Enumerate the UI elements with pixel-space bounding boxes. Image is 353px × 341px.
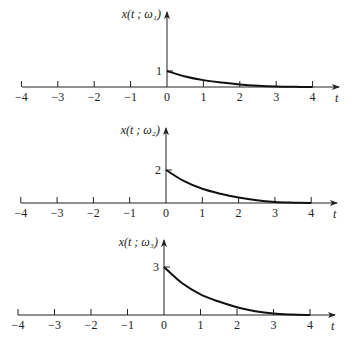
x-tick-label: −1	[124, 90, 137, 104]
x-tick-label: −4	[14, 206, 27, 220]
x-tick-label: 0	[163, 206, 169, 220]
x-tick-label: −3	[51, 90, 64, 104]
x-tick-label: 2	[234, 318, 240, 332]
y-tick-label: 3	[153, 260, 159, 274]
x-tick-label: −3	[51, 206, 64, 220]
x-tick-label: 4	[310, 90, 316, 104]
x-tick-label: −4	[15, 90, 28, 104]
x-axis-label: t	[331, 319, 335, 333]
x-tick-label: 3	[271, 318, 277, 332]
y-tick-label: 1	[156, 64, 162, 78]
x-tick-label: 3	[273, 90, 279, 104]
x-tick-label: 1	[199, 206, 205, 220]
x-tick-label: −2	[88, 90, 101, 104]
x-tick-label: 2	[237, 90, 243, 104]
y-axis-label: x(t ; ω₃)	[118, 235, 158, 249]
x-tick-label: 1	[200, 90, 206, 104]
x-tick-label: 2	[236, 206, 242, 220]
x-axis-label: t	[335, 91, 339, 105]
x-tick-label: 3	[272, 206, 278, 220]
x-axis-label: t	[333, 207, 337, 221]
x-tick-label: 1	[198, 318, 204, 332]
series-line	[167, 71, 313, 87]
series-line	[166, 170, 311, 203]
x-tick-label: −4	[12, 318, 25, 332]
x-tick-label: 4	[308, 206, 314, 220]
x-tick-label: 0	[164, 90, 170, 104]
x-tick-label: −2	[87, 206, 100, 220]
x-tick-label: 0	[161, 318, 167, 332]
plot-1: x(t ; ω₁) t 1 −4−3−2−101234	[15, 7, 339, 105]
plot-2: x(t ; ω₂) t 2 −4−3−2−101234	[14, 123, 337, 221]
plot-3: x(t ; ω₃) t 3 −4−3−2−101234	[12, 235, 335, 333]
x-tick-label: −3	[48, 318, 61, 332]
x-tick-label: 4	[307, 318, 313, 332]
x-tick-label: −2	[85, 318, 98, 332]
y-axis-label: x(t ; ω₂)	[120, 123, 160, 137]
figure: x(t ; ω₁) t 1 −4−3−2−101234 x(t ; ω₂) t …	[0, 0, 353, 341]
y-tick-label: 2	[155, 163, 161, 177]
series-line	[164, 267, 310, 315]
x-tick-label: −1	[123, 206, 136, 220]
x-tick-label: −1	[121, 318, 134, 332]
y-axis-label: x(t ; ω₁)	[121, 7, 161, 21]
